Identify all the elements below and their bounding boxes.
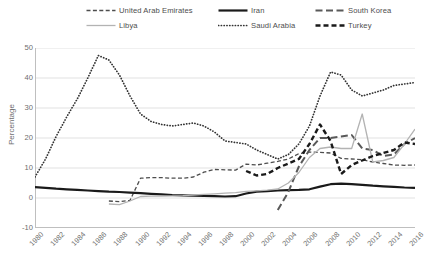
- legend-line-swatch: [218, 21, 248, 30]
- y-axis-tick-label: 10: [7, 164, 33, 172]
- y-axis-tick-label: 50: [7, 44, 33, 52]
- legend-line-swatch: [86, 6, 116, 15]
- y-axis-tick-label: 40: [7, 74, 33, 82]
- legend-item-label: Libya: [119, 21, 138, 30]
- legend-line-swatch: [218, 6, 248, 15]
- legend-item-united-arab-emirates[interactable]: United Arab Emirates: [86, 6, 193, 15]
- legend-item-libya[interactable]: Libya: [86, 21, 138, 30]
- series-canvas: [35, 48, 415, 228]
- legend-item-label: United Arab Emirates: [119, 6, 193, 15]
- legend-item-label: Saudi Arabia: [251, 21, 295, 30]
- chart-figure: United Arab EmiratesIranSouth KoreaLibya…: [0, 0, 428, 267]
- legend-item-label: Turkey: [348, 21, 372, 30]
- y-axis-tick-label: 0: [7, 194, 33, 202]
- y-axis-tick-label: -10: [7, 224, 33, 232]
- legend-item-turkey[interactable]: Turkey: [315, 21, 372, 30]
- series-line-iran: [35, 184, 415, 197]
- legend-line-swatch: [315, 6, 345, 15]
- chart-legend: United Arab EmiratesIranSouth KoreaLibya…: [0, 6, 428, 38]
- legend-item-south-korea[interactable]: South Korea: [315, 6, 391, 15]
- x-axis-ticks: 1980198219841986198819901992199419961998…: [35, 230, 415, 267]
- legend-line-swatch: [86, 21, 116, 30]
- legend-item-saudi-arabia[interactable]: Saudi Arabia: [218, 21, 295, 30]
- y-axis-title: Percentage: [7, 93, 16, 157]
- legend-item-label: South Korea: [348, 6, 391, 15]
- plot-area: [35, 48, 415, 228]
- legend-item-iran[interactable]: Iran: [218, 6, 265, 15]
- series-line-libya: [109, 114, 415, 205]
- legend-item-label: Iran: [251, 6, 265, 15]
- legend-line-swatch: [315, 21, 345, 30]
